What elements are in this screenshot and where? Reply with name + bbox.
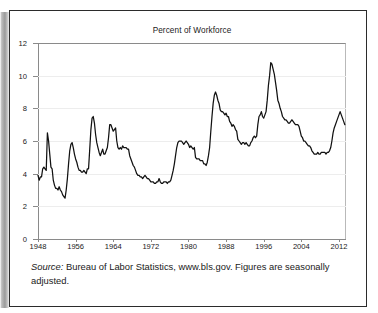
y-tick-label: 8: [7, 104, 27, 113]
figure-container: Percent of Workforce 024681012 194819561…: [0, 0, 378, 313]
y-tick-label: 4: [7, 169, 27, 178]
x-tick-label: 2004: [286, 242, 316, 251]
x-tick-label: 1964: [98, 242, 128, 251]
y-tick-label: 2: [7, 202, 27, 211]
x-tick-label: 1972: [136, 242, 166, 251]
x-tick-label: 1948: [23, 242, 53, 251]
y-tick-label: 12: [7, 39, 27, 48]
x-tick-label: 1956: [61, 242, 91, 251]
chart-title: Percent of Workforce: [38, 26, 346, 35]
series-plot: [38, 43, 346, 239]
source-note: Source: Bureau of Labor Statistics, www.…: [31, 260, 341, 287]
x-tick-label: 1980: [173, 242, 203, 251]
x-tick-label: 2012: [324, 242, 354, 251]
source-text: Bureau of Labor Statistics, www.bls.gov.…: [31, 261, 329, 286]
source-label: Source:: [31, 261, 63, 272]
x-axis-line: [38, 239, 346, 240]
x-tick-label: 1996: [249, 242, 279, 251]
page-gutter-bar: [0, 12, 9, 308]
y-tick-label: 6: [7, 137, 27, 146]
y-tick-label: 10: [7, 71, 27, 80]
x-tick-label: 1988: [211, 242, 241, 251]
unemployment-line: [38, 63, 345, 199]
